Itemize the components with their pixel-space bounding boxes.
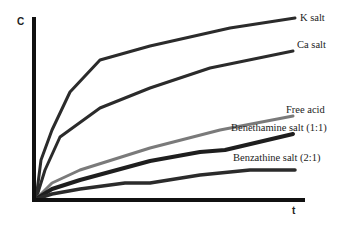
concentration-time-chart: C t K salt Ca salt Free acid Benethamine… bbox=[0, 0, 344, 226]
label-ca-salt: Ca salt bbox=[297, 39, 326, 50]
label-k-salt: K salt bbox=[300, 12, 325, 23]
label-benethamine-salt: Benethamine salt (1:1) bbox=[231, 122, 327, 134]
x-axis-label: t bbox=[292, 205, 296, 216]
curve-benzathine-salt bbox=[36, 170, 295, 199]
label-benzathine-salt: Benzathine salt (2:1) bbox=[233, 152, 321, 164]
y-axis-label: C bbox=[17, 16, 24, 27]
label-free-acid: Free acid bbox=[286, 104, 326, 115]
